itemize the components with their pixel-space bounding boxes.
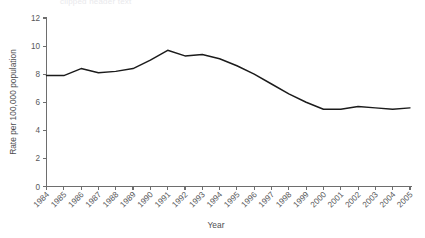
x-tick-label: 1990 bbox=[136, 190, 156, 210]
y-tick-label: 10 bbox=[31, 42, 41, 51]
y-axis-title: Rate per 100,000 population bbox=[8, 49, 18, 155]
x-tick-label: 1999 bbox=[292, 190, 312, 210]
x-tick-label: 2005 bbox=[395, 190, 415, 210]
x-tick-label: 1985 bbox=[49, 190, 69, 210]
x-tick-label: 2004 bbox=[378, 190, 398, 210]
x-tick-label: 1997 bbox=[257, 190, 277, 210]
clipped-header-strip: clipped header text bbox=[0, 0, 425, 7]
y-axis: 024681012 Rate per 100,000 population bbox=[8, 14, 47, 192]
x-axis: 1984198519861987198819891990199119921993… bbox=[32, 187, 415, 231]
y-tick-label: 6 bbox=[35, 98, 40, 107]
x-tick-label: 1989 bbox=[118, 190, 138, 210]
x-tick-label: 1991 bbox=[153, 190, 173, 210]
x-tick-label: 1992 bbox=[170, 190, 190, 210]
y-tick-label: 0 bbox=[35, 183, 40, 192]
y-tick-label: 4 bbox=[35, 126, 40, 135]
y-axis-tick-labels: 024681012 bbox=[31, 14, 41, 192]
x-tick-label: 2002 bbox=[343, 190, 363, 210]
x-tick-label: 1995 bbox=[222, 190, 242, 210]
clipped-header-text: clipped header text bbox=[60, 0, 425, 6]
x-tick-label: 2001 bbox=[326, 190, 346, 210]
x-tick-label: 1986 bbox=[66, 190, 86, 210]
y-tick-label: 2 bbox=[35, 154, 40, 163]
x-tick-label: 1998 bbox=[274, 190, 294, 210]
x-tick-label: 1996 bbox=[240, 190, 260, 210]
x-tick-label: 1994 bbox=[205, 190, 225, 210]
x-tick-label: 1987 bbox=[84, 190, 104, 210]
y-tick-label: 8 bbox=[35, 70, 40, 79]
x-tick-label: 1984 bbox=[32, 190, 52, 210]
x-tick-label: 1993 bbox=[188, 190, 208, 210]
x-axis-tick-labels: 1984198519861987198819891990199119921993… bbox=[32, 190, 415, 210]
x-tick-label: 2003 bbox=[361, 190, 381, 210]
y-tick-label: 12 bbox=[31, 14, 41, 23]
chart-canvas: 024681012 Rate per 100,000 population 19… bbox=[0, 0, 425, 238]
data-series-group bbox=[47, 50, 411, 109]
x-tick-label: 2000 bbox=[309, 190, 329, 210]
x-axis-title: Year bbox=[208, 220, 225, 230]
line-chart: clipped header text 024681012 Rate per 1… bbox=[0, 0, 425, 238]
data-line-rate bbox=[47, 50, 411, 109]
x-tick-label: 1988 bbox=[101, 190, 121, 210]
